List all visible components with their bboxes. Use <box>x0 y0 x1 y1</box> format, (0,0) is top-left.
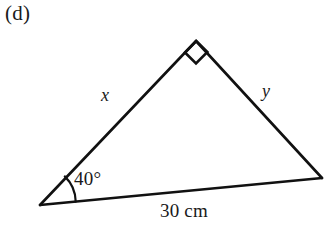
angle-measure-label: 40° <box>74 169 101 188</box>
side-label-y: y <box>262 82 270 100</box>
triangle-side-x <box>40 41 196 205</box>
geometry-figure: (d) x y 40° 30 cm <box>0 0 331 229</box>
triangle-side-y <box>196 41 322 178</box>
side-label-x: x <box>101 86 109 104</box>
part-label: (d) <box>5 3 30 24</box>
triangle-diagram <box>0 0 331 229</box>
base-length-label: 30 cm <box>160 201 208 220</box>
right-angle-marker-icon <box>185 41 207 64</box>
